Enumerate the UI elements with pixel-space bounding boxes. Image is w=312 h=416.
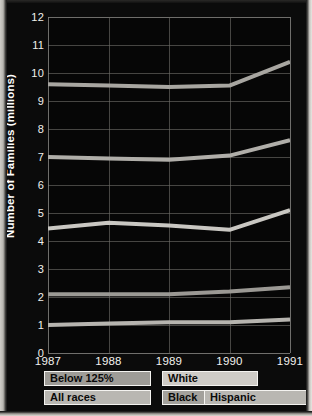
legend-item-label: All races <box>50 392 96 403</box>
legend-item-white: White <box>162 371 258 386</box>
chart-legend: Below 125%White All racesBlackHispanic <box>14 371 300 409</box>
legend-row-1: Below 125%White <box>14 371 300 387</box>
legend-item-all-races: All races <box>44 390 151 405</box>
y-tick-label-1: 1 <box>4 319 44 331</box>
series-line-all-races <box>48 62 290 87</box>
x-tick-label-1988: 1988 <box>95 355 121 367</box>
gridline-v-1991 <box>290 17 291 353</box>
scan-edge-bottom <box>0 411 312 416</box>
y-tick-label-11: 11 <box>4 39 44 51</box>
series-line-white <box>48 140 290 160</box>
y-tick-label-5: 5 <box>4 207 44 219</box>
series-layer <box>48 17 290 353</box>
scan-edge-right <box>306 0 312 416</box>
scan-edge-top <box>0 0 312 3</box>
y-tick-label-12: 12 <box>4 11 44 23</box>
series-line-below-125- <box>48 210 290 230</box>
x-tick-label-1991: 1991 <box>277 355 303 367</box>
series-line-black <box>48 287 290 294</box>
y-tick-label-6: 6 <box>4 179 44 191</box>
series-line-hispanic <box>48 319 290 325</box>
y-tick-label-7: 7 <box>4 151 44 163</box>
x-axis-labels: 19871988198919901991 <box>0 355 312 371</box>
legend-item-label: White <box>168 373 198 384</box>
y-tick-label-10: 10 <box>4 67 44 79</box>
scanned-page: Number of Families (millions) 0123456789… <box>0 0 312 416</box>
y-tick-label-8: 8 <box>4 123 44 135</box>
y-tick-label-3: 3 <box>4 263 44 275</box>
y-tick-label-4: 4 <box>4 235 44 247</box>
legend-item-label: Black <box>168 392 197 403</box>
legend-item-hispanic: Hispanic <box>204 390 312 405</box>
legend-row-2: All racesBlackHispanic <box>14 390 300 406</box>
x-tick-label-1989: 1989 <box>156 355 182 367</box>
y-tick-label-2: 2 <box>4 291 44 303</box>
legend-item-label: Hispanic <box>210 392 256 403</box>
x-tick-label-1987: 1987 <box>35 355 61 367</box>
legend-item-below-125-: Below 125% <box>44 371 151 386</box>
x-tick-label-1990: 1990 <box>216 355 242 367</box>
gridline-h-0 <box>48 353 290 354</box>
legend-item-label: Below 125% <box>50 373 114 384</box>
scan-edge-left <box>0 0 7 416</box>
y-tick-label-9: 9 <box>4 95 44 107</box>
